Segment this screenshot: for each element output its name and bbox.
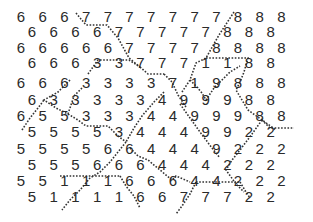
grid-cell: 4 — [184, 173, 206, 189]
grid-cell: 7 — [195, 189, 217, 205]
grid-cell: 4 — [151, 124, 173, 140]
grid-cell: 8 — [238, 92, 260, 108]
grid-cell: 4 — [140, 141, 162, 157]
grid-cell: 6 — [130, 189, 152, 205]
grid-cell: 5 — [64, 124, 86, 140]
grid-cell: 1 — [43, 189, 65, 205]
grid-cell: 7 — [151, 55, 173, 71]
grid-cell: 8 — [260, 24, 282, 40]
grid-cell: 7 — [108, 24, 130, 40]
grid-cell: 1 — [86, 189, 108, 205]
grid-cell: 3 — [43, 92, 65, 108]
grid-cell: 3 — [108, 124, 130, 140]
grid-cell: 5 — [32, 173, 54, 189]
grid-cell: 7 — [130, 55, 152, 71]
grid-cell: 5 — [43, 157, 65, 173]
grid-cell: 8 — [260, 55, 282, 71]
grid-cell: 6 — [21, 55, 43, 71]
grid-cell: 7 — [130, 24, 152, 40]
grid-cell: 6 — [64, 24, 86, 40]
grid-cell: 7 — [173, 24, 195, 40]
grid-cell: 2 — [260, 157, 282, 173]
grid-cell: 6 — [43, 24, 65, 40]
grid-cell: 5 — [64, 157, 86, 173]
grid-cell: 2 — [238, 189, 260, 205]
grid-cell: 6 — [86, 24, 108, 40]
grid-cell: 6 — [130, 157, 152, 173]
grid-cell: 2 — [270, 173, 292, 189]
grid-cell: 5 — [43, 124, 65, 140]
grid-cell: 6 — [97, 141, 119, 157]
grid-cell: 1 — [216, 55, 238, 71]
grid-cell: 8 — [270, 75, 292, 91]
grid-cell: 5 — [32, 141, 54, 157]
grid-cell: 3 — [64, 92, 86, 108]
grid-cell: 2 — [249, 141, 271, 157]
grid-cell: 5 — [21, 157, 43, 173]
grid-cell: 2 — [227, 173, 249, 189]
grid-cell: 6 — [10, 75, 32, 91]
grid-cell: 1 — [97, 173, 119, 189]
number-grid: 6667777777888666677777888666667777888866… — [0, 0, 313, 222]
grid-cell: 4 — [184, 141, 206, 157]
grid-cell: 5 — [53, 108, 75, 124]
grid-cell: 6 — [64, 55, 86, 71]
grid-cell: 6 — [119, 173, 141, 189]
grid-cell: 9 — [216, 92, 238, 108]
grid-cell: 3 — [119, 108, 141, 124]
grid-cell: 3 — [108, 55, 130, 71]
grid-cell: 3 — [130, 92, 152, 108]
grid-cell: 8 — [249, 75, 271, 91]
grid-cell: 1 — [64, 189, 86, 205]
grid-cell: 4 — [195, 157, 217, 173]
grid-cell: 8 — [238, 24, 260, 40]
grid-cell: 9 — [173, 92, 195, 108]
grid-cell: 3 — [108, 92, 130, 108]
grid-cell: 9 — [205, 108, 227, 124]
grid-cell: 9 — [205, 141, 227, 157]
grid-cell: 9 — [184, 108, 206, 124]
grid-cell: 8 — [249, 108, 271, 124]
grid-cell: 4 — [130, 124, 152, 140]
grid-cell: 6 — [53, 75, 75, 91]
grid-cell: 6 — [86, 157, 108, 173]
grid-cell: 5 — [21, 124, 43, 140]
grid-cell: 2 — [260, 124, 282, 140]
grid-cell: 9 — [227, 108, 249, 124]
grid-cell: 6 — [21, 92, 43, 108]
grid-cell: 3 — [86, 92, 108, 108]
grid-cell: 2 — [260, 189, 282, 205]
grid-cell: 8 — [238, 55, 260, 71]
grid-cell: 6 — [162, 173, 184, 189]
grid-cell: 8 — [260, 92, 282, 108]
grid-cell: 6 — [140, 173, 162, 189]
grid-cell: 6 — [119, 141, 141, 157]
grid-cell: 5 — [75, 141, 97, 157]
grid-cell: 7 — [173, 189, 195, 205]
grid-cell: 6 — [32, 75, 54, 91]
grid-cell: 4 — [205, 173, 227, 189]
grid-cell: 4 — [151, 92, 173, 108]
grid-cell: 6 — [10, 108, 32, 124]
grid-cell: 4 — [162, 108, 184, 124]
grid-cell: 3 — [97, 75, 119, 91]
grid-cell: 7 — [173, 55, 195, 71]
grid-cell: 5 — [53, 141, 75, 157]
grid-cell: 9 — [216, 124, 238, 140]
grid-cell: 3 — [75, 75, 97, 91]
grid-cell: 2 — [216, 157, 238, 173]
grid-cell: 9 — [195, 92, 217, 108]
grid-cell: 1 — [75, 173, 97, 189]
grid-cell: 6 — [108, 157, 130, 173]
grid-cell: 7 — [195, 24, 217, 40]
grid-cell: 6 — [151, 189, 173, 205]
grid-cell: 6 — [43, 55, 65, 71]
grid-cell: 1 — [184, 75, 206, 91]
grid-cell: 3 — [119, 75, 141, 91]
grid-cell: 2 — [238, 157, 260, 173]
grid-cell: 7 — [162, 75, 184, 91]
grid-cell: 7 — [151, 24, 173, 40]
grid-cell: 8 — [227, 75, 249, 91]
grid-cell: 2 — [249, 173, 271, 189]
grid-cell: 5 — [86, 124, 108, 140]
